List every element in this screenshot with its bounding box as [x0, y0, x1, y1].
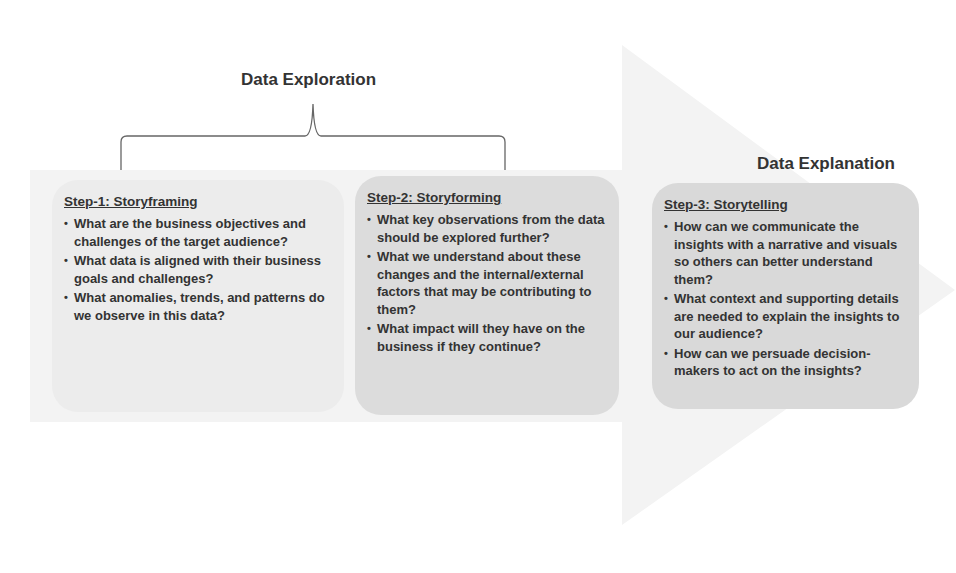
bullet-text: What are the business objectives and cha… [74, 216, 306, 249]
step-2-bullets: •What key observations from the data sho… [367, 211, 609, 355]
bullet-icon: • [664, 290, 668, 308]
bullet-icon: • [664, 218, 668, 236]
bullet-text: What key observations from the data shou… [377, 212, 605, 245]
bullet-text: What data is aligned with their business… [74, 253, 321, 286]
bullet-item: •What data is aligned with their busines… [64, 252, 334, 287]
step-2-box: Step-2: Storyforming •What key observati… [355, 176, 619, 415]
bullet-item: •What context and supporting details are… [664, 290, 909, 343]
bullet-text: What context and supporting details are … [674, 291, 899, 341]
bullet-item: •What anomalies, trends, and patterns do… [64, 289, 334, 324]
bullet-icon: • [64, 215, 68, 233]
bullet-item: •What impact will they have on the busin… [367, 320, 609, 355]
bullet-icon: • [64, 252, 68, 270]
bullet-item: •What are the business objectives and ch… [64, 215, 334, 250]
bullet-text: How can we persuade decision-makers to a… [674, 346, 871, 379]
bullet-item: •How can we communicate the insights wit… [664, 218, 909, 288]
data-exploration-heading: Data Exploration [241, 70, 376, 90]
bullet-icon: • [367, 248, 371, 266]
data-explanation-heading: Data Explanation [757, 154, 895, 174]
step-3-bullets: •How can we communicate the insights wit… [664, 218, 909, 380]
bullet-icon: • [367, 211, 371, 229]
bullet-item: •What key observations from the data sho… [367, 211, 609, 246]
bullet-item: •How can we persuade decision-makers to … [664, 345, 909, 380]
step-1-bullets: •What are the business objectives and ch… [64, 215, 334, 324]
bullet-text: What we understand about these changes a… [377, 249, 592, 317]
step-3-box: Step-3: Storytelling •How can we communi… [652, 183, 919, 409]
bullet-icon: • [367, 320, 371, 338]
bullet-text: What anomalies, trends, and patterns do … [74, 290, 325, 323]
step-2-title: Step-2: Storyforming [367, 190, 609, 205]
bullet-icon: • [664, 345, 668, 363]
step-1-title: Step-1: Storyframing [64, 194, 334, 209]
curly-brace [121, 104, 505, 170]
bullet-icon: • [64, 289, 68, 307]
bullet-item: •What we understand about these changes … [367, 248, 609, 318]
bullet-text: How can we communicate the insights with… [674, 219, 897, 287]
step-3-title: Step-3: Storytelling [664, 197, 909, 212]
step-1-box: Step-1: Storyframing •What are the busin… [52, 180, 344, 412]
bullet-text: What impact will they have on the busine… [377, 321, 585, 354]
